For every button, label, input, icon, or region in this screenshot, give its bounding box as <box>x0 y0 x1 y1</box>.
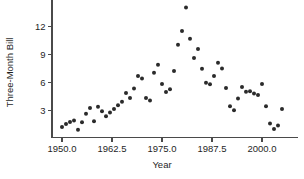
chart-figure: 36912 1950.01962.51975.01987.52000.0 Thr… <box>0 0 304 179</box>
data-point <box>248 89 252 93</box>
x-tick-label: 1987.5 <box>197 143 226 154</box>
data-point <box>244 90 248 94</box>
data-point <box>164 90 168 94</box>
data-point <box>252 92 256 96</box>
data-point <box>156 63 160 67</box>
x-tick-label: 1975.0 <box>147 143 176 154</box>
data-point <box>100 109 104 113</box>
data-point <box>64 122 68 126</box>
data-point <box>60 125 64 129</box>
data-point <box>172 69 176 73</box>
data-point <box>236 96 240 100</box>
data-point <box>212 74 216 78</box>
data-point <box>136 74 140 78</box>
data-point <box>208 82 212 86</box>
data-point <box>124 91 128 95</box>
y-axis: 36912 <box>35 0 52 138</box>
x-axis-title: Year <box>152 159 171 170</box>
data-point <box>68 120 72 124</box>
data-point <box>216 61 220 65</box>
x-tick-label: 1962.5 <box>97 143 126 154</box>
data-point <box>132 87 136 91</box>
data-point <box>232 108 236 112</box>
data-point <box>140 76 144 80</box>
data-point <box>268 121 272 125</box>
data-point <box>192 56 196 60</box>
data-point <box>220 66 224 70</box>
data-points <box>60 6 284 132</box>
data-point <box>264 104 268 108</box>
data-point <box>76 128 80 132</box>
y-axis-title: Three-Month Bill <box>4 38 15 108</box>
data-point <box>188 37 192 41</box>
data-point <box>92 119 96 123</box>
data-point <box>168 87 172 91</box>
data-point <box>120 100 124 104</box>
data-point <box>116 103 120 107</box>
data-point <box>180 29 184 33</box>
data-point <box>112 107 116 111</box>
data-point <box>152 71 156 75</box>
x-axis: 1950.01962.51975.01987.52000.0 <box>47 138 298 155</box>
data-point <box>160 82 164 86</box>
data-point <box>80 120 84 124</box>
data-point <box>176 43 180 47</box>
data-point <box>272 127 276 131</box>
x-tick-label: 1950.0 <box>47 143 76 154</box>
x-tick-label: 2000.0 <box>247 143 276 154</box>
data-point <box>88 106 92 110</box>
y-tick-label: 9 <box>40 49 45 60</box>
data-point <box>108 111 112 115</box>
data-point <box>104 114 108 118</box>
data-point <box>144 96 148 100</box>
data-point <box>240 85 244 89</box>
scatter-plot: 36912 1950.01962.51975.01987.52000.0 Thr… <box>0 0 304 179</box>
y-tick-label: 6 <box>40 77 45 88</box>
data-point <box>224 86 228 90</box>
y-tick-label: 12 <box>35 21 46 32</box>
data-point <box>184 6 188 10</box>
data-point <box>148 99 152 103</box>
data-point <box>228 104 232 108</box>
data-point <box>256 93 260 97</box>
data-point <box>276 124 280 128</box>
data-point <box>200 67 204 71</box>
data-point <box>128 96 132 100</box>
y-tick-label: 3 <box>40 105 45 116</box>
data-point <box>280 107 284 111</box>
data-point <box>72 118 76 122</box>
data-point <box>260 82 264 86</box>
data-point <box>84 112 88 116</box>
data-point <box>204 81 208 85</box>
data-point <box>96 105 100 109</box>
data-point <box>196 47 200 51</box>
